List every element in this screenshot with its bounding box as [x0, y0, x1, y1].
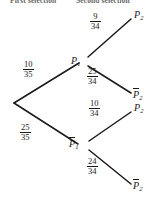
node-p1-p2-bar: P2: [133, 90, 143, 101]
edge-label-p1-p2-numerator: 9: [90, 12, 101, 21]
edge-label-p1-p2: 9 34: [90, 12, 101, 31]
tree-branch-lines: [0, 0, 156, 203]
node-p1-base: P: [71, 55, 77, 66]
edge-label-p1-p2-denominator: 34: [90, 22, 101, 31]
edge-label-root-p1: 10 35: [23, 60, 34, 79]
edge-label-root-p1-bar: 25 35: [20, 123, 31, 142]
node-p1-bar-base: P: [69, 138, 75, 149]
node-p1-bar-p2-subscript: 2: [140, 107, 143, 114]
edge-label-p1-p2-bar-denominator: 34: [87, 77, 98, 86]
edge-label-p1-bar-p2: 10 34: [89, 99, 100, 118]
node-p1-bar-subscript: 1: [75, 143, 78, 150]
node-p1-bar-p2-base: P: [134, 102, 140, 113]
node-p1: P1: [71, 56, 81, 67]
edge-label-p1-p2-bar: 25 34: [87, 67, 98, 86]
edge-label-p1-bar-p2-bar: 24 34: [87, 157, 98, 176]
edge-label-p1-bar-p2-denominator: 34: [89, 109, 100, 118]
edge-label-p1-bar-p2-bar-numerator: 24: [87, 157, 98, 166]
probability-tree-figure: First selection Second selection P1 P1 P…: [0, 0, 156, 203]
node-p1-bar-p2: P2: [134, 103, 144, 114]
node-p1-p2-subscript: 2: [140, 14, 143, 21]
edge-label-root-p1-bar-denominator: 35: [20, 133, 31, 142]
edge-label-root-p1-numerator: 10: [23, 60, 34, 69]
node-p1-p2-bar-subscript: 2: [139, 94, 142, 101]
node-p1-bar-p2-bar-subscript: 2: [139, 185, 142, 192]
node-p1-p2-bar-base: P: [133, 89, 139, 100]
node-p1-bar-p2-bar: P2: [133, 181, 143, 192]
edge-label-p1-bar-p2-numerator: 10: [89, 99, 100, 108]
node-p1-p2-base: P: [134, 9, 140, 20]
edge-label-root-p1-bar-numerator: 25: [20, 123, 31, 132]
edge-label-p1-p2-bar-numerator: 25: [87, 67, 98, 76]
edge-label-root-p1-denominator: 35: [23, 70, 34, 79]
node-p1-bar-p2-bar-base: P: [133, 180, 139, 191]
node-p1-subscript: 1: [77, 60, 80, 67]
node-p1-p2: P2: [134, 10, 144, 21]
edge-label-p1-bar-p2-bar-denominator: 34: [87, 167, 98, 176]
node-p1-bar: P1: [69, 139, 79, 150]
